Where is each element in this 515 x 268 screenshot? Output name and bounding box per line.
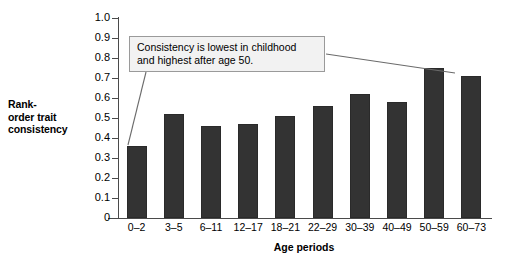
x-axis-tick-label: 18–21 xyxy=(267,221,304,233)
y-axis-tick-label: 0.7 xyxy=(74,71,110,83)
y-axis-tick-label: 0.4 xyxy=(74,131,110,143)
y-axis-tick-label: 1.0 xyxy=(74,11,110,23)
x-axis-tick-label: 3–5 xyxy=(155,221,192,233)
bar xyxy=(275,116,295,218)
bar xyxy=(313,106,333,218)
x-axis-tick-label: 22–29 xyxy=(304,221,341,233)
bar xyxy=(164,114,184,218)
y-axis-tick-label: 0.2 xyxy=(74,171,110,183)
x-axis-tick-label: 6–11 xyxy=(192,221,229,233)
y-axis-tick-label: 0.8 xyxy=(74,51,110,63)
annotation-line-1: Consistency is lowest in childhood xyxy=(137,41,317,54)
y-axis-tick-label: 0 xyxy=(74,211,110,223)
annotation-callout: Consistency is lowest in childhood and h… xyxy=(129,36,325,72)
bar xyxy=(350,94,370,218)
y-axis-tick-label: 0.1 xyxy=(74,191,110,203)
y-axis-tick-label: 0.3 xyxy=(74,151,110,163)
x-axis-tick-label: 12–17 xyxy=(230,221,267,233)
bar xyxy=(461,76,481,218)
x-axis-tick-label: 30–39 xyxy=(341,221,378,233)
bar-chart-figure: Rank- order trait consistency 1.00.90.80… xyxy=(0,0,515,268)
x-axis-title: Age periods xyxy=(118,241,490,253)
x-axis-tick-label: 60–73 xyxy=(453,221,490,233)
y-axis-tick xyxy=(112,218,118,219)
y-axis-tick-label: 0.6 xyxy=(74,91,110,103)
bar xyxy=(424,68,444,218)
x-axis-tick-labels: 0–23–56–1112–1718–2122–2930–3940–4950–59… xyxy=(118,221,490,237)
y-axis-tick-label: 0.9 xyxy=(74,31,110,43)
bar xyxy=(127,146,147,218)
x-axis-tick-label: 0–2 xyxy=(118,221,155,233)
y-axis-tick-label: 0.5 xyxy=(74,111,110,123)
bar xyxy=(201,126,221,218)
bar xyxy=(387,102,407,218)
x-axis-tick-label: 40–49 xyxy=(378,221,415,233)
x-axis-tick-label: 50–59 xyxy=(416,221,453,233)
x-axis-line xyxy=(108,218,492,219)
bar xyxy=(238,124,258,218)
annotation-line-2: and highest after age 50. xyxy=(137,54,317,67)
